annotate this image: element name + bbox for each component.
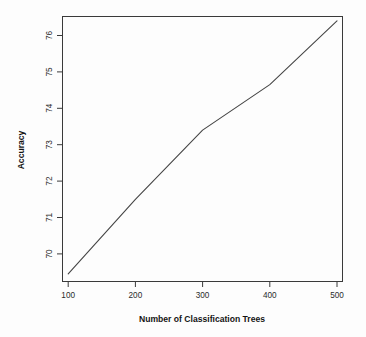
x-tick-label-100: 100 bbox=[61, 291, 75, 300]
x-tick-label-300: 300 bbox=[196, 291, 210, 300]
y-axis-tick-labels: 76 75 74 73 72 71 70 bbox=[45, 31, 54, 259]
x-axis-title: Number of Classification Trees bbox=[139, 314, 265, 324]
y-tick-label-72: 72 bbox=[45, 176, 54, 186]
x-tick-label-200: 200 bbox=[129, 291, 143, 300]
y-axis-ticks bbox=[57, 36, 63, 254]
y-tick-label-76: 76 bbox=[45, 31, 54, 41]
y-tick-label-70: 70 bbox=[45, 249, 54, 259]
y-tick-label-74: 74 bbox=[45, 103, 54, 113]
x-axis-ticks bbox=[68, 282, 337, 288]
y-axis-title: Accuracy bbox=[16, 130, 26, 169]
accuracy-series-line bbox=[68, 21, 337, 274]
line-chart: 76 75 74 73 72 71 70 100 200 300 400 500… bbox=[0, 0, 366, 337]
y-tick-label-73: 73 bbox=[45, 140, 54, 150]
y-tick-label-71: 71 bbox=[45, 213, 54, 223]
chart-figure: 76 75 74 73 72 71 70 100 200 300 400 500… bbox=[0, 0, 366, 337]
y-tick-label-75: 75 bbox=[45, 67, 54, 77]
x-tick-label-400: 400 bbox=[263, 291, 277, 300]
x-axis-tick-labels: 100 200 300 400 500 bbox=[61, 291, 344, 300]
x-tick-label-500: 500 bbox=[330, 291, 344, 300]
